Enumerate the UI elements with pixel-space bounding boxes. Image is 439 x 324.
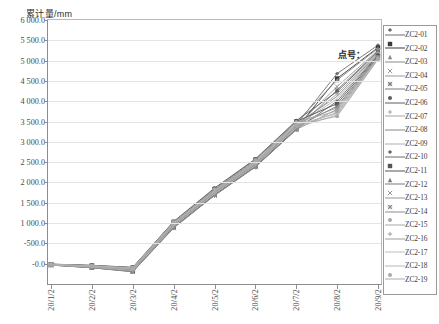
gridline xyxy=(48,223,381,224)
point-number-annotation: 点号： xyxy=(338,48,365,61)
legend-label: ZC2-07 xyxy=(405,110,427,124)
legend-label: ZC2-12 xyxy=(405,178,427,192)
series-lines xyxy=(48,20,381,284)
x-tick-label: 20/1/2 xyxy=(47,289,56,311)
legend-label: ZC2-09 xyxy=(405,137,427,151)
x-tick-label: 20/7/2 xyxy=(292,289,301,311)
gridline xyxy=(48,182,381,183)
legend-label: ZC2-18 xyxy=(405,259,427,273)
legend-label: ZC2-04 xyxy=(405,69,427,83)
x-tick-label: 20/4/2 xyxy=(169,289,178,311)
x-tick-label: 20/8/2 xyxy=(333,289,342,311)
legend-key-icon xyxy=(385,273,405,287)
series-line xyxy=(51,59,378,268)
gridline xyxy=(48,142,381,143)
legend-label: ZC2-17 xyxy=(405,246,427,260)
x-axis-labels: 20/1/220/2/220/3/220/4/220/5/220/6/220/7… xyxy=(47,287,382,324)
plot-area xyxy=(47,19,382,285)
series-line xyxy=(51,55,378,272)
series-line xyxy=(51,50,378,269)
legend-label: ZC2-13 xyxy=(405,191,427,205)
legend-label: ZC2-19 xyxy=(405,273,427,287)
y-axis-ticks xyxy=(0,19,50,285)
x-tick-label: 20/6/2 xyxy=(251,289,260,311)
gridline xyxy=(48,243,381,244)
series-line xyxy=(51,58,378,269)
gridline xyxy=(48,122,381,123)
gridline xyxy=(48,81,381,82)
legend-item-zc2-19[interactable]: ZC2-19 xyxy=(385,273,436,287)
legend-label: ZC2-08 xyxy=(405,123,427,137)
chart-root: 累计量/mm 6 000.05 500.05 000.04 500.04 000… xyxy=(0,0,439,324)
series-line xyxy=(51,53,378,268)
legend-label: ZC2-11 xyxy=(405,164,427,178)
x-tick-label: 20/9/2 xyxy=(374,289,383,311)
legend-label: ZC2-02 xyxy=(405,42,427,56)
series-line xyxy=(51,45,378,268)
x-tick-label: 20/5/2 xyxy=(210,289,219,311)
gridline xyxy=(48,101,381,102)
legend-label: ZC2-15 xyxy=(405,218,427,232)
gridline xyxy=(48,162,381,163)
series-line xyxy=(51,57,378,271)
legend-label: ZC2-06 xyxy=(405,96,427,110)
series-line xyxy=(51,59,378,269)
gridline xyxy=(48,203,381,204)
gridline xyxy=(48,61,381,62)
legend-label: ZC2-10 xyxy=(405,150,427,164)
legend[interactable]: ZC2-01ZC2-02ZC2-03ZC2-04ZC2-05ZC2-06ZC2-… xyxy=(383,25,437,295)
x-tick-label: 20/2/2 xyxy=(87,289,96,311)
legend-label: ZC2-05 xyxy=(405,82,427,96)
legend-label: ZC2-01 xyxy=(405,28,427,42)
legend-label: ZC2-03 xyxy=(405,55,427,69)
legend-label: ZC2-14 xyxy=(405,205,427,219)
gridline xyxy=(48,40,381,41)
x-tick-label: 20/3/2 xyxy=(128,289,137,311)
legend-label: ZC2-16 xyxy=(405,232,427,246)
series-line xyxy=(51,59,378,271)
